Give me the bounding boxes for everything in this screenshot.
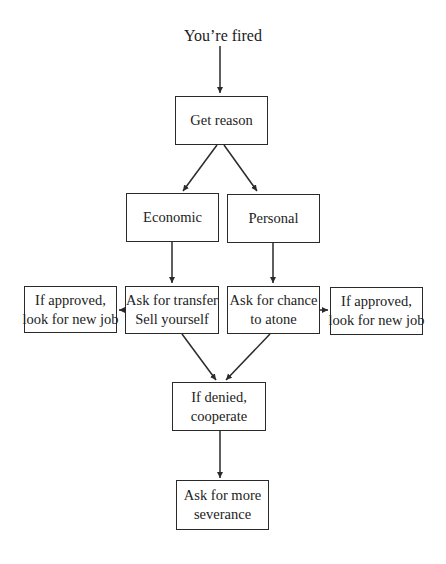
arrow-get-reason-to-personal bbox=[224, 145, 257, 191]
node-approved-right: If approved, look for new job bbox=[330, 287, 423, 335]
node-text-line-2: cooperate bbox=[191, 407, 247, 426]
node-text-line-2: look for new job bbox=[328, 311, 424, 330]
node-ask-transfer: Ask for transfer Sell yourself bbox=[125, 286, 219, 334]
node-text-line-2: Sell yourself bbox=[135, 310, 209, 329]
arrow-transfer-to-denied bbox=[182, 334, 216, 380]
node-economic: Economic bbox=[126, 193, 219, 242]
node-get-reason: Get reason bbox=[175, 96, 268, 145]
node-text: Economic bbox=[143, 208, 202, 227]
node-text-line-1: Ask for chance bbox=[230, 291, 318, 310]
node-text-line-2: to atone bbox=[250, 310, 296, 329]
node-approved-left: If approved, look for new job bbox=[24, 286, 117, 333]
node-ask-atone: Ask for chance to atone bbox=[227, 286, 320, 334]
node-text-line-1: If denied, bbox=[191, 388, 247, 407]
node-text-line-1: If approved, bbox=[341, 292, 412, 311]
node-text: Get reason bbox=[190, 111, 252, 130]
node-text: Personal bbox=[249, 209, 299, 228]
flowchart: You’re fired Get reason Economic Persona… bbox=[0, 0, 446, 564]
node-text-line-2: look for new job bbox=[22, 310, 118, 329]
arrow-atone-to-denied bbox=[226, 334, 270, 380]
start-label: You’re fired bbox=[0, 27, 446, 45]
node-ask-severance: Ask for more severance bbox=[176, 480, 269, 530]
arrow-get-reason-to-economic bbox=[183, 145, 217, 191]
node-text-line-1: If approved, bbox=[35, 291, 106, 310]
node-personal: Personal bbox=[227, 194, 320, 243]
node-text-line-1: Ask for more bbox=[184, 486, 261, 505]
node-text-line-1: Ask for transfer bbox=[126, 291, 218, 310]
node-if-denied: If denied, cooperate bbox=[172, 382, 266, 431]
node-text-line-2: severance bbox=[194, 505, 251, 524]
